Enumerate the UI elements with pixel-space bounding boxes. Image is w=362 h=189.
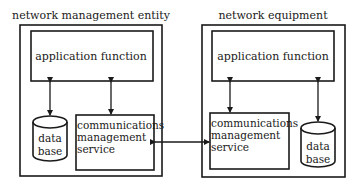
- network-management-diagram: network management entity application fu…: [0, 0, 362, 189]
- left-comms-label-2: management: [77, 131, 147, 143]
- right-application-label: application function: [217, 50, 329, 63]
- right-entity-title: network equipment: [218, 9, 328, 22]
- left-database-label-2: base: [38, 145, 63, 157]
- right-database-label-1: data: [306, 140, 329, 152]
- right-comms-label-3: service: [211, 141, 249, 153]
- right-comms-label-1: communications: [211, 117, 298, 129]
- left-comms-label-1: communications: [77, 119, 164, 131]
- left-entity: network management entity application fu…: [12, 9, 171, 176]
- left-application-label: application function: [35, 50, 147, 63]
- right-comms-label-2: management: [211, 129, 281, 141]
- right-database-label-2: base: [306, 153, 331, 165]
- left-entity-title: network management entity: [12, 9, 171, 22]
- right-entity: network equipment application function c…: [202, 9, 345, 177]
- left-comms-label-3: service: [77, 143, 115, 155]
- left-database-label-1: data: [38, 132, 61, 144]
